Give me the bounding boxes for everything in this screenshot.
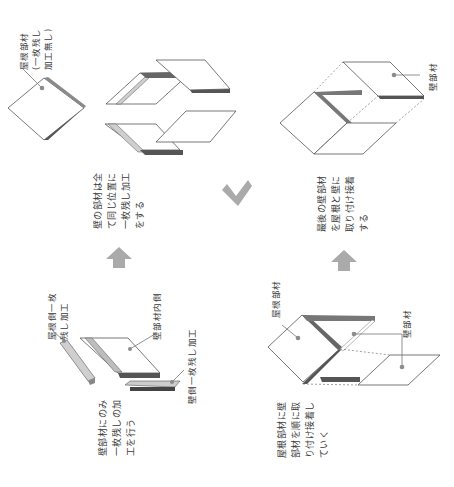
roof-panel-illustration bbox=[8, 68, 86, 140]
wall-member-callout-final: 壁部材 bbox=[427, 63, 439, 92]
diagram-drawing bbox=[0, 0, 454, 487]
step1-description: 壁部材にのみ 一枚残しの加 工を行う bbox=[96, 399, 138, 456]
arrow-up-icon bbox=[106, 247, 132, 268]
step2-description: 壁の部材は全 て同じ位置に 一枚残し加工 をする bbox=[91, 172, 147, 229]
step4-description: 最後の壁部材 を屋根と壁に 取り付け接着 する bbox=[315, 175, 371, 232]
step3-description: 屋根部材に壁 部材を順に取 り付け接着し ていく bbox=[275, 401, 331, 458]
arrow-up-icon bbox=[331, 250, 357, 271]
arrow-diagonal-icon bbox=[222, 180, 252, 206]
wall-side-cut-callout: 壁側一枚残し加工 bbox=[186, 328, 198, 404]
roof-wall-attachment-illustration bbox=[268, 315, 440, 385]
final-assembly-illustration bbox=[280, 62, 424, 154]
roof-side-cut-callout: 屋根側一枚 残し加工 bbox=[46, 293, 70, 341]
roof-member-callout-step3: 屋根部材 bbox=[270, 280, 282, 318]
wall-inner-callout: 壁部材内側 bbox=[151, 293, 163, 341]
wall-piece-exploded-illustration bbox=[52, 330, 184, 391]
assembly-diagram: 屋根部材 (一枚残し 加工無し) 壁部材 壁の部材は全 て同じ位置に 一枚残し加… bbox=[0, 0, 454, 487]
wall-member-callout-step3: 壁部材 bbox=[401, 310, 413, 339]
wall-panels-exploded-illustration bbox=[105, 60, 236, 155]
roof-member-callout: 屋根部材 (一枚残し 加工無し) bbox=[18, 28, 54, 70]
